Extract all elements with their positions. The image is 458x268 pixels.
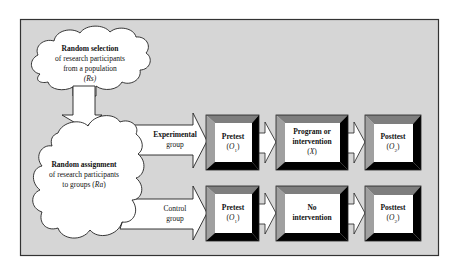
ctl-posttest-sym-sub: 2 xyxy=(394,219,397,224)
control-label-line1: Control xyxy=(164,204,187,214)
control-label-line2: group xyxy=(166,214,184,224)
exp-posttest-symbol: (O2) xyxy=(387,142,400,156)
ctl-treatment-line1: No xyxy=(307,203,316,213)
selection-line3: from a population xyxy=(63,64,117,74)
exp-treatment-line1: Program or xyxy=(293,127,331,137)
exp-treatment-line2: intervention xyxy=(292,137,331,147)
assignment-line3-suffix: ) xyxy=(103,180,106,189)
assignment-line3-prefix: to groups ( xyxy=(62,180,95,189)
exp-treatment-symbol: (X) xyxy=(307,147,317,157)
assignment-line3-symbol: Ra xyxy=(95,180,103,189)
exp-posttest-sym-sub: 2 xyxy=(394,148,397,153)
exp-pretest-symbol: (O1) xyxy=(227,142,240,156)
assignment-line1: Random assignment xyxy=(51,160,116,170)
assignment-line1-bold: assignment xyxy=(81,160,117,169)
ctl-pretest-sym-sub: 1 xyxy=(234,219,237,224)
selection-symbol: (Rs) xyxy=(84,74,97,84)
exp-pretest-title: Pretest xyxy=(222,132,244,142)
selection-line2: of research participants xyxy=(55,54,125,64)
exp-pretest-sym-sub: 1 xyxy=(234,148,237,153)
assignment-line2: of research participants xyxy=(49,170,119,180)
ctl-posttest-symbol: (O2) xyxy=(387,213,400,227)
selection-line1: Random selection xyxy=(62,44,119,54)
experimental-label-line1: Experimental xyxy=(153,130,197,140)
assignment-line1-prefix: Random xyxy=(51,160,80,169)
ctl-posttest-title: Posttest xyxy=(381,203,406,213)
assignment-line3: to groups (Ra) xyxy=(62,180,105,190)
ctl-pretest-symbol: (O1) xyxy=(227,213,240,227)
exp-treatment-sym-letter: X xyxy=(310,147,315,156)
experimental-label-line2: group xyxy=(166,140,184,150)
ctl-treatment-line2: intervention xyxy=(292,213,331,223)
ctl-pretest-title: Pretest xyxy=(222,203,244,213)
exp-posttest-title: Posttest xyxy=(381,132,406,142)
